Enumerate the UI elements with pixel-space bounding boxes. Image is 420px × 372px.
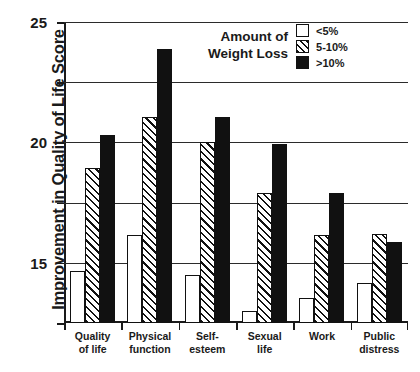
- y-axis-tick: 20: [57, 82, 64, 84]
- x-axis-tick: [121, 323, 123, 330]
- category-label-line: Quality: [64, 330, 121, 343]
- category-label-line: Self-: [179, 330, 236, 343]
- bar-group: [351, 22, 408, 323]
- bar: [185, 275, 200, 323]
- bar: [85, 168, 100, 323]
- y-axis-tick: 5: [57, 263, 64, 265]
- bar: [314, 235, 329, 323]
- category-label: Publicdistress: [351, 330, 408, 355]
- bar: [387, 242, 402, 323]
- bar-group: [121, 22, 178, 323]
- y-axis-tick-label: 25: [30, 14, 47, 31]
- category-label: Work: [293, 330, 350, 355]
- category-label-line: function: [121, 343, 178, 356]
- bar-group: [64, 22, 121, 323]
- bar: [215, 117, 230, 323]
- legend-title: Amount ofWeight Loss: [208, 24, 288, 62]
- bar: [357, 283, 372, 323]
- y-axis-tick: 10: [57, 203, 64, 205]
- x-axis-tick: [293, 323, 295, 330]
- legend-title-line: Weight Loss: [208, 45, 288, 62]
- quality-of-life-bar-chart: Improvement in Quality of Life Score 051…: [0, 0, 420, 372]
- legend-swatch-hatch: [296, 40, 309, 53]
- bar: [127, 235, 142, 323]
- legend-label: 5-10%: [316, 41, 348, 53]
- category-label: Self-esteem: [179, 330, 236, 355]
- category-label-line: distress: [351, 343, 408, 356]
- x-axis-tick: [179, 323, 181, 330]
- category-label-line: Sexual: [236, 330, 293, 343]
- x-axis-ticks: [64, 323, 408, 330]
- bar: [142, 117, 157, 323]
- legend-entry: <5%: [296, 24, 348, 37]
- x-axis-category-labels: Qualityof lifePhysicalfunctionSelf-estee…: [64, 330, 408, 355]
- category-label: Qualityof life: [64, 330, 121, 355]
- category-label-line: life: [236, 343, 293, 356]
- category-label: Sexuallife: [236, 330, 293, 355]
- chart-legend: Amount ofWeight Loss <5%5-10%>10%: [208, 24, 348, 69]
- bar: [70, 271, 85, 323]
- y-axis-tick: 0: [57, 323, 64, 325]
- category-label-line: of life: [64, 343, 121, 356]
- legend-title-line: Amount of: [208, 28, 288, 45]
- legend-entries: <5%5-10%>10%: [296, 24, 348, 69]
- bar: [372, 234, 387, 323]
- category-label: Physicalfunction: [121, 330, 178, 355]
- bar: [257, 193, 272, 323]
- category-label-line: esteem: [179, 343, 236, 356]
- category-label-line: Public: [351, 330, 408, 343]
- legend-entry: >10%: [296, 56, 348, 69]
- bar: [272, 144, 287, 323]
- category-label-line: Work: [293, 330, 350, 343]
- bar: [100, 135, 115, 323]
- y-axis-tick-label: 20: [30, 134, 47, 151]
- legend-swatch-solid: [296, 56, 309, 69]
- y-axis-tick: 25: [57, 22, 64, 24]
- legend-label: <5%: [316, 25, 338, 37]
- legend-swatch-open: [296, 24, 309, 37]
- bar: [200, 142, 215, 323]
- category-label-line: Physical: [121, 330, 178, 343]
- y-axis-tick-label: 15: [30, 254, 47, 271]
- bar: [329, 193, 344, 323]
- legend-entry: 5-10%: [296, 40, 348, 53]
- x-axis-tick: [351, 323, 353, 330]
- y-axis-tick: 15: [57, 142, 64, 144]
- x-axis-tick: [407, 323, 409, 330]
- bar: [242, 311, 257, 323]
- bar: [299, 298, 314, 323]
- x-axis-tick: [236, 323, 238, 330]
- x-axis-tick: [64, 323, 66, 330]
- bar: [157, 49, 172, 324]
- legend-label: >10%: [316, 57, 344, 69]
